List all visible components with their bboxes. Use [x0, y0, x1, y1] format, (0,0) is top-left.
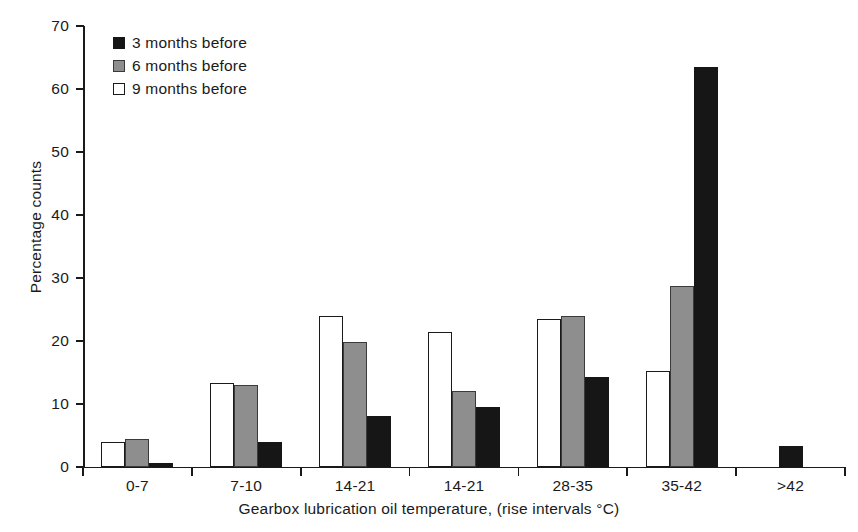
x-axis-tick-label: 14-21: [410, 478, 519, 494]
bar: [670, 286, 694, 467]
x-axis-tick-label: 0-7: [83, 478, 192, 494]
bar: [149, 463, 173, 467]
y-axis-tick-label: 50: [51, 144, 69, 160]
bar: [537, 319, 561, 467]
bar: [694, 67, 718, 467]
bar: [476, 407, 500, 467]
bar: [101, 442, 125, 467]
bar: [779, 446, 803, 467]
x-axis-tick-label: 7-10: [192, 478, 301, 494]
legend-item-label: 6 months before: [132, 57, 247, 75]
legend-item-label: 3 months before: [132, 34, 247, 52]
y-axis-tick-label: 70: [51, 18, 69, 34]
legend-item: 9 months before: [113, 77, 247, 100]
bar: [234, 385, 258, 467]
bar: [452, 391, 476, 467]
x-axis-tick: [518, 467, 520, 476]
x-axis-tick: [844, 467, 846, 476]
y-axis-tick-label: 60: [51, 81, 69, 97]
bar: [210, 383, 234, 467]
bar: [561, 316, 585, 467]
x-axis-tick-label: 35-42: [627, 478, 736, 494]
bar: [367, 416, 391, 467]
bar: [646, 371, 670, 467]
x-axis-title: Gearbox lubrication oil temperature, (ri…: [0, 500, 858, 518]
x-axis-tick: [300, 467, 302, 476]
x-axis-tick-label: 28-35: [518, 478, 627, 494]
x-axis-tick: [626, 467, 628, 476]
chart-legend: 3 months before6 months before9 months b…: [113, 31, 247, 100]
bar: [343, 342, 367, 467]
bar: [125, 439, 149, 467]
y-axis-tick-label: 30: [51, 270, 69, 286]
y-axis-title: Percentage counts: [27, 77, 45, 377]
y-axis-tick-label: 20: [51, 333, 69, 349]
y-axis-tick-label: 10: [51, 396, 69, 412]
x-axis-tick-label: >42: [736, 478, 845, 494]
legend-item: 6 months before: [113, 54, 247, 77]
bar: [585, 377, 609, 467]
legend-item: 3 months before: [113, 31, 247, 54]
bar: [428, 332, 452, 467]
legend-item-label: 9 months before: [132, 80, 247, 98]
y-axis-tick-label: 0: [60, 459, 69, 475]
x-axis-tick: [82, 467, 84, 476]
x-axis-tick-label: 14-21: [301, 478, 410, 494]
x-axis-tick: [735, 467, 737, 476]
legend-swatch-icon: [113, 37, 125, 49]
y-axis-tick-label: 40: [51, 207, 69, 223]
bar-chart-figure: 010203040506070 Percentage counts 0-77-1…: [0, 0, 858, 532]
legend-swatch-icon: [113, 83, 125, 95]
x-axis-tick: [409, 467, 411, 476]
legend-swatch-icon: [113, 60, 125, 72]
bar: [319, 316, 343, 467]
x-axis-tick: [191, 467, 193, 476]
bar: [258, 442, 282, 467]
